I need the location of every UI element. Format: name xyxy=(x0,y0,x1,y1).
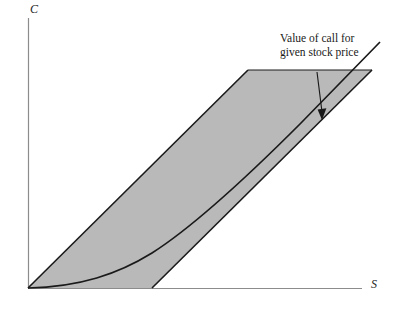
x-axis-label: S xyxy=(371,277,377,292)
call-option-value-figure: C S Value of call for given stock price xyxy=(0,0,396,310)
y-axis-label: C xyxy=(30,2,38,17)
annotation-line-2: given stock price xyxy=(280,45,384,59)
annotation-line-1: Value of call for xyxy=(280,31,384,45)
annotation-label: Value of call for given stock price xyxy=(280,31,384,59)
